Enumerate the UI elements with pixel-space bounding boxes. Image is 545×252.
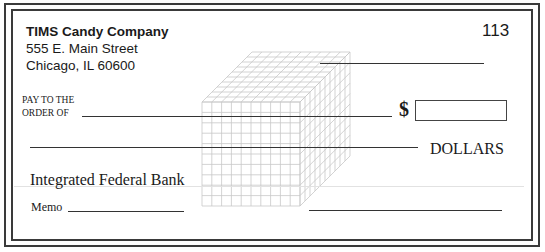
dollars-label: DOLLARS bbox=[430, 140, 504, 158]
amount-box[interactable] bbox=[415, 100, 507, 121]
check-number: 113 bbox=[482, 21, 509, 41]
pay-to-label: PAY TO THE bbox=[22, 95, 74, 105]
order-of-label: ORDER OF bbox=[22, 108, 69, 118]
company-name: TIMS Candy Company bbox=[26, 24, 169, 39]
memo-line[interactable] bbox=[68, 211, 184, 212]
company-address-street: 555 E. Main Street bbox=[26, 41, 138, 56]
payee-line[interactable] bbox=[82, 116, 392, 117]
written-amount-line[interactable] bbox=[30, 147, 418, 148]
dollar-sign: $ bbox=[399, 98, 409, 121]
bank-name: Integrated Federal Bank bbox=[30, 171, 185, 189]
signature-line[interactable] bbox=[309, 210, 502, 211]
date-line[interactable] bbox=[320, 63, 484, 64]
company-address-city: Chicago, IL 60600 bbox=[26, 58, 135, 73]
memo-label: Memo bbox=[31, 200, 62, 215]
